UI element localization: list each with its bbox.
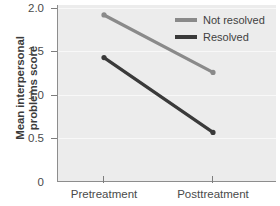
legend: Not resolved Resolved [175, 14, 265, 43]
y-tick-label-2-0: 2.0 [28, 2, 44, 14]
y-tick-label-0: 0 [38, 176, 44, 188]
data-point-not-resolved-pretreatment [101, 12, 106, 17]
x-tick-label-posttreatment: Posttreatment [177, 188, 249, 200]
line-chart-figure: Mean interpersonal problems score 2.0 1.… [0, 0, 280, 206]
x-tick-mark-pretreatment [103, 176, 104, 183]
legend-swatch-not-resolved [175, 18, 197, 22]
data-point-resolved-posttreatment [210, 130, 215, 135]
y-tick-label-0-5: 0.5 [28, 132, 44, 144]
legend-entry-resolved: Resolved [175, 31, 265, 43]
series-line-resolved [104, 58, 213, 133]
x-tick-mark-posttreatment [212, 176, 213, 183]
legend-entry-not-resolved: Not resolved [175, 14, 265, 26]
data-point-not-resolved-posttreatment [210, 70, 215, 75]
x-tick-label-pretreatment: Pretreatment [71, 188, 137, 200]
legend-label-resolved: Resolved [203, 31, 249, 43]
y-axis-tick-labels: 2.0 1.5 1.0 0.5 0 [0, 0, 52, 206]
legend-label-not-resolved: Not resolved [203, 14, 265, 26]
y-tick-label-1-0: 1.0 [28, 89, 44, 101]
data-point-resolved-pretreatment [101, 55, 106, 60]
y-tick-label-1-5: 1.5 [28, 45, 44, 57]
legend-swatch-resolved [175, 35, 197, 39]
